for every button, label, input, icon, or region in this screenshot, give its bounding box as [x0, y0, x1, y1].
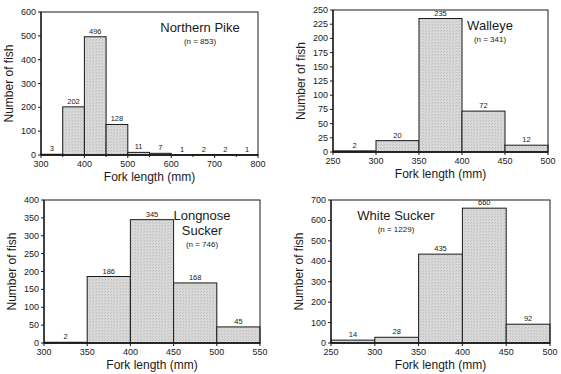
histogram-bar	[376, 141, 419, 152]
y-axis-label: Number of fish	[294, 42, 308, 120]
chart-title: Northern Pike	[160, 20, 239, 35]
bar-value-label: 2	[352, 141, 356, 150]
y-tick-label: 50	[29, 320, 39, 330]
histogram-bar	[505, 145, 548, 152]
bar-value-label: 20	[393, 131, 401, 140]
x-tick-label: 450	[497, 156, 512, 166]
bar-value-label: 345	[146, 210, 159, 219]
histogram-bar	[419, 19, 462, 152]
bar-value-label: 2	[223, 145, 227, 154]
x-tick-label: 300	[36, 347, 51, 357]
histogram-bar	[462, 111, 505, 152]
y-tick-label: 50	[318, 119, 328, 129]
x-tick-label: 500	[542, 347, 557, 357]
histogram-bar	[63, 107, 85, 155]
y-tick-label: 250	[313, 5, 328, 15]
bar-value-label: 92	[524, 314, 532, 323]
y-tick-label: 225	[313, 19, 328, 29]
y-axis-label: Number of fish	[5, 232, 19, 310]
bar-value-label: 28	[393, 327, 401, 336]
histogram-bar	[106, 124, 128, 155]
bar-value-label: 1	[245, 145, 249, 154]
x-tick-label: 400	[455, 347, 470, 357]
bar-value-label: 1	[180, 145, 184, 154]
y-tick-label: 600	[311, 215, 326, 225]
x-tick-label: 250	[323, 347, 338, 357]
y-tick-label: 100	[24, 302, 39, 312]
y-tick-label: 700	[311, 195, 326, 205]
histogram-bar	[174, 283, 217, 343]
x-tick-label: 350	[411, 156, 426, 166]
sample-size-label: (n = 341)	[474, 35, 507, 44]
y-tick-label: 300	[311, 277, 326, 287]
panel-northern-pike: 3202496128117122101002003004005006003004…	[2, 7, 266, 184]
histogram-bar	[506, 324, 550, 343]
x-tick-label: 450	[499, 347, 514, 357]
y-tick-label: 200	[21, 102, 36, 112]
chart-title: White Sucker	[357, 208, 435, 223]
histogram-bar	[419, 254, 463, 343]
x-tick-label: 400	[454, 156, 469, 166]
y-tick-label: 400	[311, 256, 326, 266]
histogram-bar	[130, 220, 173, 343]
y-tick-label: 75	[318, 104, 328, 114]
sample-size-label: (n = 1229)	[378, 225, 415, 234]
panel-longnose-sucker: 2186345168450501001502002503003504003003…	[5, 195, 268, 372]
x-tick-label: 600	[164, 159, 179, 169]
sample-size-label: (n = 853)	[184, 37, 217, 46]
y-tick-label: 300	[21, 79, 36, 89]
bar-value-label: 186	[103, 267, 116, 276]
x-tick-label: 450	[166, 347, 181, 357]
bar-value-label: 168	[189, 273, 202, 282]
y-tick-label: 150	[313, 62, 328, 72]
panel-walleye: 2202357212025507510012515017520022525025…	[294, 5, 556, 181]
x-tick-label: 350	[411, 347, 426, 357]
x-tick-label: 250	[325, 156, 340, 166]
bar-value-label: 14	[349, 330, 357, 339]
x-tick-label: 300	[368, 156, 383, 166]
bar-value-label: 3	[50, 144, 54, 153]
y-axis-label: Number of fish	[2, 44, 16, 122]
chart-title: Longnose	[173, 208, 230, 223]
y-tick-label: 25	[318, 133, 328, 143]
histogram-figure: 3202496128117122101002003004005006003004…	[0, 0, 561, 374]
bar-value-label: 128	[111, 114, 124, 123]
bar-value-label: 435	[434, 244, 447, 253]
bar-value-label: 72	[479, 101, 487, 110]
bar-value-label: 7	[158, 143, 162, 152]
y-axis-label: Number of fish	[292, 232, 306, 310]
y-tick-label: 500	[21, 31, 36, 41]
histogram-bar	[87, 277, 130, 343]
x-axis-label: Fork length (mm)	[395, 167, 486, 181]
histogram-bar	[462, 208, 506, 343]
x-tick-label: 400	[123, 347, 138, 357]
y-tick-label: 600	[21, 7, 36, 17]
x-axis-label: Fork length (mm)	[104, 170, 195, 184]
x-axis-label: Fork length (mm)	[395, 358, 486, 372]
y-tick-label: 400	[24, 195, 39, 205]
y-tick-label: 175	[313, 48, 328, 58]
bar-value-label: 202	[67, 97, 80, 106]
x-tick-label: 550	[252, 347, 267, 357]
x-tick-label: 350	[80, 347, 95, 357]
x-tick-label: 500	[209, 347, 224, 357]
x-tick-label: 500	[120, 159, 135, 169]
sample-size-label: (n = 746)	[186, 240, 219, 249]
y-tick-label: 250	[24, 249, 39, 259]
y-tick-label: 100	[311, 318, 326, 328]
histogram-bar	[375, 337, 419, 343]
y-tick-label: 200	[311, 297, 326, 307]
y-tick-label: 400	[21, 55, 36, 65]
y-tick-label: 150	[24, 284, 39, 294]
histogram-bar	[84, 37, 106, 155]
bar-value-label: 496	[89, 27, 102, 36]
y-tick-label: 200	[24, 267, 39, 277]
x-tick-label: 400	[77, 159, 92, 169]
bar-value-label: 2	[202, 145, 206, 154]
x-tick-label: 300	[367, 347, 382, 357]
chart-title: Sucker	[182, 223, 223, 238]
x-tick-label: 300	[33, 159, 48, 169]
x-tick-label: 500	[540, 156, 555, 166]
y-tick-label: 350	[24, 213, 39, 223]
y-tick-label: 100	[313, 90, 328, 100]
